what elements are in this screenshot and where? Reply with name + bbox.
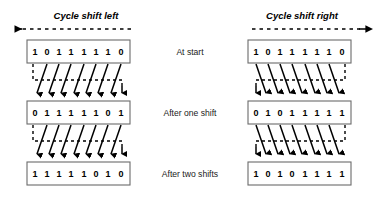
- bit-cell: 1: [326, 169, 331, 179]
- shift-arrows-left-gap1: [33, 125, 122, 154]
- bit-cell: 1: [105, 169, 110, 179]
- bit-cell: 1: [81, 169, 86, 179]
- bit-cell: 0: [339, 47, 344, 57]
- shift-arrows-right-gap1: [256, 125, 345, 154]
- panel-cycle-shift-right: Cycle shift right 1 0 1 1 1 1 1 0 0: [248, 10, 366, 185]
- bit-cell: 1: [302, 169, 307, 179]
- bit-cell: 1: [289, 47, 294, 57]
- bit-cell: 0: [118, 169, 123, 179]
- stage-label-after-one-shift: After one shift: [163, 108, 217, 118]
- bit-cell: 0: [118, 47, 123, 57]
- bit-cell: 1: [56, 108, 61, 118]
- bit-cell: 1: [81, 108, 86, 118]
- panel-title-left: Cycle shift left: [54, 10, 120, 21]
- register-box-right-row1: [248, 101, 351, 124]
- register-box-right-row2: [248, 162, 351, 185]
- bit-cell: 1: [277, 169, 282, 179]
- bit-cell: 1: [289, 108, 294, 118]
- bit-cell: 1: [81, 47, 86, 57]
- bit-cell: 1: [253, 169, 258, 179]
- register-box-left-row1: [27, 101, 130, 124]
- bit-cell: 1: [56, 47, 61, 57]
- bit-cell: 0: [44, 47, 49, 57]
- cycle-shift-diagram: Cycle shift left 1 0 1 1 1 1 1 0: [0, 0, 380, 197]
- bit-cell: 1: [302, 47, 307, 57]
- bit-cell: 1: [68, 169, 73, 179]
- bit-cell: 1: [93, 108, 98, 118]
- bit-cell: 1: [56, 169, 61, 179]
- panel-cycle-shift-left: Cycle shift left 1 0 1 1 1 1 1 0: [15, 10, 131, 185]
- bit-cell: 0: [265, 47, 270, 57]
- bit-cell: 1: [68, 108, 73, 118]
- register-box-right-row0: [248, 40, 351, 63]
- bit-cell: 0: [265, 169, 270, 179]
- bit-cell: 0: [93, 169, 98, 179]
- bit-cell: 1: [277, 47, 282, 57]
- bit-cell: 1: [339, 108, 344, 118]
- bit-cell: 1: [32, 47, 37, 57]
- bit-cell: 1: [314, 47, 319, 57]
- bit-cell: 1: [314, 169, 319, 179]
- bit-cell: 1: [326, 47, 331, 57]
- bit-cell: 1: [32, 169, 37, 179]
- bit-cell: 1: [265, 108, 270, 118]
- bit-cell: 0: [277, 108, 282, 118]
- bit-cell: 0: [105, 108, 110, 118]
- stage-labels: At start After one shift After two shift…: [162, 47, 218, 179]
- bit-cell: 1: [105, 47, 110, 57]
- bit-cell: 1: [68, 47, 73, 57]
- stage-label-after-two-shifts: After two shifts: [162, 169, 218, 179]
- bit-cell: 1: [339, 169, 344, 179]
- bit-cell: 1: [44, 108, 49, 118]
- register-box-left-row0: [27, 40, 130, 63]
- shift-arrows-right-gap0: [256, 64, 345, 93]
- bit-cell: 1: [326, 108, 331, 118]
- bit-cell: 0: [289, 169, 294, 179]
- bit-cell: 1: [44, 169, 49, 179]
- bit-cell: 1: [118, 108, 123, 118]
- panel-title-right: Cycle shift right: [266, 10, 339, 21]
- bit-cell: 1: [302, 108, 307, 118]
- bit-cell: 1: [253, 47, 258, 57]
- shift-arrows-left-gap0: [33, 64, 122, 93]
- bit-cell: 1: [314, 108, 319, 118]
- bit-cell: 1: [93, 47, 98, 57]
- stage-label-at-start: At start: [176, 47, 204, 57]
- register-box-left-row2: [27, 162, 130, 185]
- bit-cell: 0: [253, 108, 258, 118]
- bit-cell: 0: [32, 108, 37, 118]
